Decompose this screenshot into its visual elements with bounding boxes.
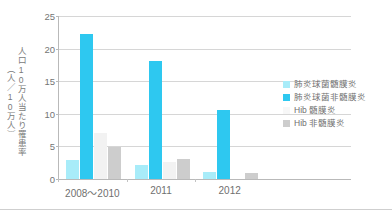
- y-tick-label: 5: [50, 141, 55, 152]
- bar-group: [59, 16, 128, 179]
- bar: [163, 162, 176, 179]
- bar: [80, 34, 93, 179]
- chart-legend: 肺炎球菌髄膜炎肺炎球菌非髄膜炎Hib 髄膜炎Hib 非髄膜炎: [283, 78, 391, 130]
- bar-groups: [59, 16, 265, 179]
- x-tick-mark: [127, 179, 128, 182]
- legend-swatch: [283, 81, 290, 88]
- x-tick-mark: [195, 179, 196, 182]
- bar: [177, 159, 190, 179]
- legend-label: Hib 髄膜炎: [294, 104, 336, 117]
- y-tick-label: 0: [50, 174, 55, 185]
- y-tick-label: 25: [44, 11, 55, 22]
- legend-swatch: [283, 107, 290, 114]
- y-tick-label: 20: [44, 43, 55, 54]
- legend-item[interactable]: Hib 髄膜炎: [283, 104, 391, 117]
- y-tick-label: 10: [44, 108, 55, 119]
- legend-label: 肺炎球菌非髄膜炎: [294, 91, 366, 104]
- bar: [217, 110, 230, 179]
- legend-label: Hib 非髄膜炎: [294, 117, 345, 130]
- legend-item[interactable]: 肺炎球菌非髄膜炎: [283, 91, 391, 104]
- x-tick-label: 2008〜2010: [58, 179, 127, 201]
- bar: [203, 172, 216, 179]
- bar: [108, 147, 121, 179]
- bar-group: [128, 16, 197, 179]
- legend-label: 肺炎球菌髄膜炎: [294, 78, 357, 91]
- legend-swatch: [283, 120, 290, 127]
- plot-area: 0510152025: [58, 16, 264, 179]
- x-tick-label: 2011: [127, 179, 196, 201]
- x-tick-label-text: 2008〜2010: [65, 188, 120, 199]
- bar: [94, 133, 107, 179]
- legend-swatch: [283, 94, 290, 101]
- bar: [135, 165, 148, 179]
- legend-item[interactable]: Hib 非髄膜炎: [283, 117, 391, 130]
- chart-figure: （人／10万人） 人口10万人当たり罹患率 0510152025 2008〜20…: [0, 0, 392, 210]
- x-tick-mark: [58, 179, 59, 182]
- legend-item[interactable]: 肺炎球菌髄膜炎: [283, 78, 391, 91]
- y-axis-title: （人／10万人） 人口10万人当たり罹患率: [2, 27, 28, 177]
- y-tick-label: 15: [44, 76, 55, 87]
- y-axis-title-line-1: 人口10万人当たり罹患率: [15, 47, 26, 157]
- x-axis: 2008〜201020112012: [58, 179, 264, 201]
- x-tick-label: 2012: [195, 179, 264, 201]
- bar-group: [196, 16, 265, 179]
- y-axis-title-line-2: （人／10万人）: [4, 65, 15, 139]
- x-tick-label-text: 2012: [219, 185, 241, 196]
- bar: [66, 160, 79, 179]
- bar: [149, 61, 162, 179]
- x-tick-label-text: 2011: [150, 185, 172, 196]
